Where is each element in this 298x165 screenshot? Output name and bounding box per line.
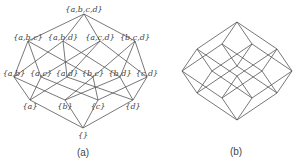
edge — [237, 98, 252, 120]
caption-b: (b) — [230, 146, 242, 157]
node-label: {b,c,d} — [120, 33, 150, 42]
node-label: {} — [78, 131, 88, 140]
edge — [197, 49, 237, 76]
node-label: {b,c} — [82, 69, 104, 78]
edge — [237, 66, 277, 93]
edge — [197, 66, 237, 93]
node-labels: {}{a}{b}{c}{d}{a,b}{a,c}{a,d}{b,c}{b,d}{… — [3, 5, 158, 140]
node-label: {a,b} — [3, 69, 26, 78]
node-label: {a,b,c} — [13, 33, 43, 42]
edge — [182, 71, 197, 93]
hasse-diagrams: {}{a}{b}{c}{d}{a,b}{a,c}{a,d}{b,c}{b,d}{… — [0, 0, 298, 165]
edge — [222, 22, 237, 44]
node-label: {d} — [125, 102, 140, 111]
node-label: {a,c,d} — [85, 33, 115, 42]
node-label: {a,d} — [56, 69, 79, 78]
hypercube-projection: (b) — [182, 22, 292, 157]
edge — [222, 98, 237, 120]
edge — [65, 77, 120, 100]
edge — [237, 22, 277, 49]
edge — [197, 22, 237, 49]
hasse-diagram-labeled: {}{a}{b}{c}{d}{a,b}{a,c}{a,d}{b,c}{b,d}{… — [3, 5, 158, 158]
node-label: {c} — [91, 102, 106, 111]
edge — [93, 77, 98, 100]
node-label: {a,b,c,d} — [65, 5, 102, 14]
edge — [182, 44, 222, 71]
edge — [222, 71, 262, 98]
node-label: {a,c} — [30, 69, 52, 78]
edge — [277, 49, 292, 71]
edge — [252, 71, 292, 98]
edges — [182, 22, 292, 120]
edge — [182, 49, 197, 71]
edge — [222, 44, 262, 71]
edge — [182, 71, 222, 98]
edge — [237, 93, 277, 120]
edge — [197, 93, 237, 120]
node-label: {b,d} — [109, 69, 132, 78]
edge — [212, 71, 252, 98]
edge — [237, 22, 252, 44]
caption-a: (a) — [77, 147, 89, 158]
edge — [252, 44, 292, 71]
node-label: {a,b,d} — [48, 33, 78, 42]
node-label: {c,d} — [136, 69, 158, 78]
edge — [277, 71, 292, 93]
edge — [212, 44, 252, 71]
node-label: {b} — [57, 102, 72, 111]
edge — [237, 49, 277, 76]
node-label: {a} — [23, 102, 38, 111]
